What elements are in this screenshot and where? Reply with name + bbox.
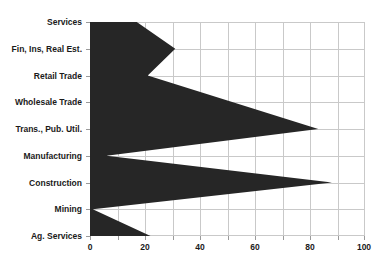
x-tick-80 (310, 236, 311, 240)
category-label-retail-trade: Retail Trade (34, 71, 82, 80)
category-label-ag-services: Ag. Services (31, 232, 82, 241)
x-tick-10 (118, 236, 119, 240)
x-tick-30 (173, 236, 174, 240)
series-filled-region (90, 22, 332, 236)
x-tick-90 (338, 236, 339, 240)
x-tick-label-40: 40 (195, 243, 204, 252)
x-tick-label-60: 60 (250, 243, 259, 252)
plot-area (90, 22, 365, 236)
category-label-manufacturing: Manufacturing (23, 152, 82, 161)
category-label-wholesale-trade: Wholesale Trade (15, 98, 82, 107)
category-axis-labels: Services Fin, Ins, Real Est. Retail Trad… (0, 22, 86, 236)
x-tick-label-80: 80 (305, 243, 314, 252)
chart-container: Services Fin, Ins, Real Est. Retail Trad… (0, 0, 381, 274)
category-label-mining: Mining (55, 205, 82, 214)
x-tick-60 (255, 236, 256, 240)
x-tick-50 (228, 236, 229, 240)
x-tick-label-100: 100 (357, 243, 371, 252)
x-tick-0 (90, 236, 91, 240)
x-tick-20 (145, 236, 146, 240)
x-tick-40 (200, 236, 201, 240)
area-series-path (90, 22, 365, 236)
category-label-fin-ins-real-est: Fin, Ins, Real Est. (12, 45, 82, 54)
category-label-construction: Construction (29, 178, 82, 187)
category-label-trans-pub-util: Trans., Pub. Util. (15, 125, 82, 134)
x-tick-label-20: 20 (140, 243, 149, 252)
x-tick-70 (283, 236, 284, 240)
category-label-services: Services (47, 18, 82, 27)
x-tick-100 (364, 236, 365, 240)
x-tick-label-0: 0 (88, 243, 93, 252)
